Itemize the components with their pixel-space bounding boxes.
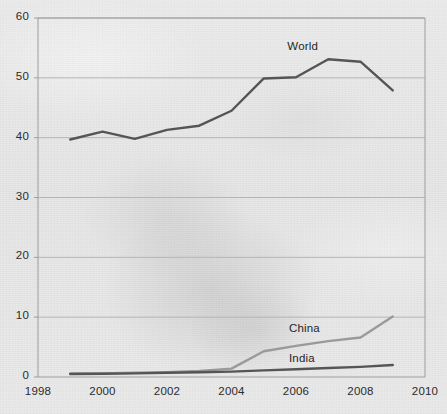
y-tick-label-0: 0 bbox=[0, 369, 29, 381]
data-series-lines bbox=[70, 59, 393, 374]
x-tick-label-1998: 1998 bbox=[18, 385, 58, 397]
series-label-china: China bbox=[289, 322, 320, 334]
y-tick-label-40: 40 bbox=[0, 130, 29, 142]
line-chart-plot bbox=[0, 0, 447, 414]
series-label-world: World bbox=[287, 40, 318, 52]
x-tick-label-2004: 2004 bbox=[212, 385, 252, 397]
x-tick-label-2006: 2006 bbox=[276, 385, 316, 397]
x-tick-label-2010: 2010 bbox=[405, 385, 445, 397]
y-tick-label-50: 50 bbox=[0, 70, 29, 82]
y-tick-label-20: 20 bbox=[0, 249, 29, 261]
series-label-india: India bbox=[289, 352, 315, 364]
y-tick-label-10: 10 bbox=[0, 309, 29, 321]
y-tick-label-30: 30 bbox=[0, 190, 29, 202]
x-tick-label-2000: 2000 bbox=[83, 385, 123, 397]
gridlines bbox=[38, 18, 425, 317]
series-line-world bbox=[70, 59, 393, 139]
x-tick-label-2002: 2002 bbox=[147, 385, 187, 397]
y-tick-label-60: 60 bbox=[0, 10, 29, 22]
chart-figure: 0102030405060 19982000200220042006200820… bbox=[0, 0, 447, 414]
x-tick-label-2008: 2008 bbox=[341, 385, 381, 397]
series-line-china bbox=[70, 317, 393, 374]
